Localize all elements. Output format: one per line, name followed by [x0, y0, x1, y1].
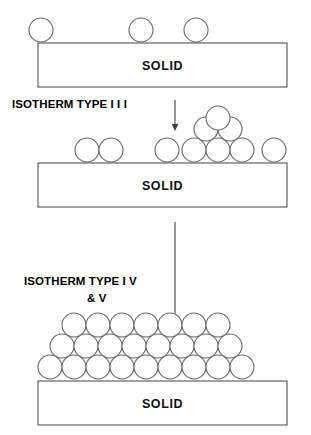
panel-monolayer-sparse: SOLID	[29, 18, 287, 87]
adsorbate-particle	[134, 313, 158, 337]
isotherm-type-v-label: & V	[87, 292, 107, 304]
adsorbate-particle	[86, 355, 110, 379]
adsorbate-particle	[129, 18, 153, 42]
adsorbate-particle	[110, 313, 134, 337]
panel-clustered: SOLID	[38, 106, 287, 207]
adsorbate-particle	[184, 18, 208, 42]
adsorbate-particle	[182, 355, 206, 379]
adsorbate-particle	[122, 334, 146, 358]
adsorbate-particle	[146, 334, 170, 358]
adsorbate-particle	[182, 313, 206, 337]
isotherm-type-iii-label: ISOTHERM TYPE I I I	[12, 98, 127, 110]
arrow-head-icon	[172, 124, 178, 131]
adsorbate-particle	[194, 334, 218, 358]
adsorbate-particle	[110, 355, 134, 379]
adsorbate-particle	[29, 18, 53, 42]
adsorbate-particle	[230, 138, 254, 162]
adsorbate-particle	[158, 355, 182, 379]
adsorbate-particle	[50, 334, 74, 358]
particle-group-top	[29, 18, 208, 42]
adsorbate-particle	[230, 355, 254, 379]
adsorbate-particle	[134, 355, 158, 379]
particle-group-bottom	[38, 313, 254, 379]
arrow-top-to-middle	[172, 100, 178, 131]
isotherm-diagram-canvas: SOLID ISOTHERM TYPE I I I SOLID ISOTHERM…	[0, 0, 311, 435]
adsorbate-particle	[206, 355, 230, 379]
adsorbate-particle	[86, 313, 110, 337]
adsorbate-particle	[182, 138, 206, 162]
adsorbate-particle	[262, 138, 286, 162]
isotherm-type-iv-label: ISOTHERM TYPE I V	[24, 275, 137, 287]
adsorbate-particle	[206, 313, 230, 337]
adsorbate-particle	[206, 106, 230, 130]
adsorbate-particle	[74, 334, 98, 358]
solid-label-top: SOLID	[142, 59, 183, 73]
adsorbate-particle	[75, 138, 99, 162]
adsorbate-particle	[218, 334, 242, 358]
particle-group-middle	[75, 106, 286, 162]
adsorbate-particle	[62, 355, 86, 379]
adsorbate-particle	[206, 138, 230, 162]
isotherm-diagram: SOLID ISOTHERM TYPE I I I SOLID ISOTHERM…	[0, 0, 311, 435]
adsorbate-particle	[98, 334, 122, 358]
adsorbate-particle	[62, 313, 86, 337]
adsorbate-particle	[38, 355, 62, 379]
solid-label-middle: SOLID	[142, 179, 183, 193]
adsorbate-particle	[99, 138, 123, 162]
solid-label-bottom: SOLID	[142, 397, 183, 411]
adsorbate-particle	[158, 313, 182, 337]
adsorbate-particle	[170, 334, 194, 358]
panel-multilayer: SOLID	[38, 313, 287, 425]
adsorbate-particle	[155, 138, 179, 162]
